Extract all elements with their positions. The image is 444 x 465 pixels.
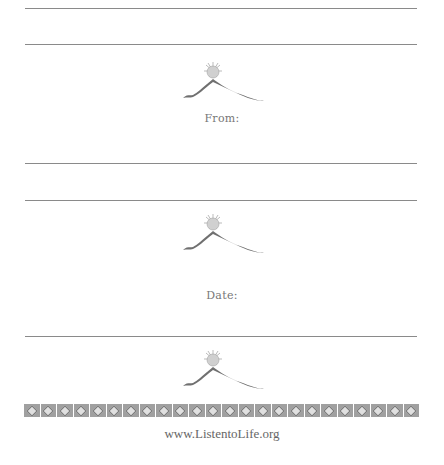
write-line-5 [25,336,417,337]
sun-over-mountain-icon [180,346,270,396]
border-tile [387,404,404,417]
border-tile [57,404,74,417]
border-tile [189,404,206,417]
border-tile [354,404,371,417]
border-tile [272,404,289,417]
write-line-4 [25,200,417,201]
border-tile [173,404,190,417]
date-label: Date: [0,289,444,302]
border-tile [321,404,338,417]
border-tile [338,404,355,417]
border-tile [140,404,157,417]
border-tile [107,404,124,417]
website-url: www.ListentoLife.org [0,426,444,442]
write-line-1 [25,8,417,9]
border-tile [24,404,41,417]
border-tile [123,404,140,417]
border-tile [156,404,173,417]
from-label: From: [0,112,444,125]
border-tile [288,404,305,417]
border-tile [222,404,239,417]
border-tile [404,404,421,417]
border-tile [90,404,107,417]
border-tile [206,404,223,417]
border-tile [41,404,58,417]
write-line-3 [25,163,417,164]
border-tile [239,404,256,417]
border-tile [255,404,272,417]
sun-over-mountain-icon [180,210,270,260]
border-tile [305,404,322,417]
border-tile [371,404,388,417]
sun-over-mountain-icon [180,58,270,108]
decorative-border [24,404,420,417]
write-line-2 [25,44,417,45]
border-tile [74,404,91,417]
